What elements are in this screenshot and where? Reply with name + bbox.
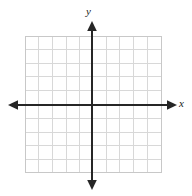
y-axis-label: y [86,6,91,17]
coordinate-grid-svg [0,0,192,196]
coordinate-plane-figure: y x [0,0,192,196]
x-axis-label: x [179,98,184,109]
